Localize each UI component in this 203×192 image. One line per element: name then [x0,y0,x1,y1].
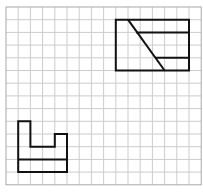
grid-figure [0,0,203,192]
grid-drawing [0,0,203,192]
